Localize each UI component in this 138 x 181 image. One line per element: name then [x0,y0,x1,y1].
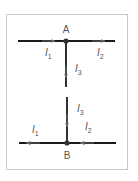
node-b-label: B [64,150,71,161]
junction-diagram: A I1 I2 I3 B I3 I2 I1 [0,0,138,181]
node-a-dot-icon [63,38,68,43]
diagram-frame [7,15,128,170]
node-a-label: A [63,24,70,35]
node-b-dot-icon [64,140,69,145]
